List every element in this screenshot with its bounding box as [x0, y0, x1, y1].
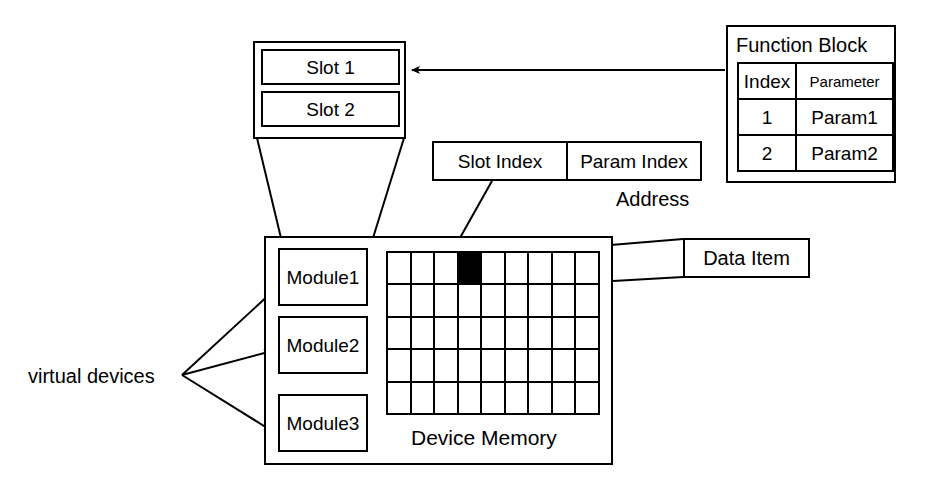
- memory-cell: [576, 285, 600, 317]
- cell-parameter-2: Param2: [796, 135, 893, 171]
- address-field-slot-index: Slot Index: [434, 143, 568, 179]
- cell-index-1: 1: [738, 99, 796, 135]
- memory-cell: [529, 350, 553, 382]
- memory-cell: [576, 350, 600, 382]
- funnel-slots-to-modules: [257, 138, 404, 238]
- memory-cell: [435, 285, 459, 317]
- memory-cell: [553, 383, 577, 415]
- memory-cell: [529, 318, 553, 350]
- memory-cell: [435, 383, 459, 415]
- table-row: 2 Param2: [738, 135, 893, 171]
- memory-cell: [388, 383, 412, 415]
- memory-cell: [412, 285, 436, 317]
- memory-cell: [459, 350, 483, 382]
- slot-item-2-label: Slot 2: [306, 100, 355, 119]
- slot-container: Slot 1 Slot 2: [253, 41, 406, 139]
- table-row: 1 Param1: [738, 99, 893, 135]
- cell-index-2: 2: [738, 135, 796, 171]
- memory-cell: [576, 383, 600, 415]
- memory-cell: [576, 318, 600, 350]
- function-block-table: Index Parameter 1 Param1 2 Param2: [737, 62, 894, 172]
- memory-cell: [506, 350, 530, 382]
- memory-cell: [435, 318, 459, 350]
- memory-cell: [388, 285, 412, 317]
- cell-parameter-1: Param1: [796, 99, 893, 135]
- slot-item-1[interactable]: Slot 1: [261, 49, 400, 85]
- memory-cell: [553, 318, 577, 350]
- memory-cell: [388, 350, 412, 382]
- module-box-2-label: Module2: [287, 336, 360, 355]
- slot-item-1-label: Slot 1: [306, 58, 355, 77]
- memory-cell: [412, 383, 436, 415]
- memory-cell: [482, 318, 506, 350]
- function-block-title: Function Block: [736, 35, 867, 55]
- memory-cell: [459, 285, 483, 317]
- memory-cell: [412, 253, 436, 285]
- memory-cell: [506, 285, 530, 317]
- memory-cell: [482, 253, 506, 285]
- memory-cell: [506, 253, 530, 285]
- device-memory-caption: Device Memory: [411, 427, 557, 448]
- device-memory-grid: [386, 251, 600, 415]
- memory-cell: [388, 318, 412, 350]
- memory-cell: [412, 318, 436, 350]
- module-box-1-label: Module1: [287, 268, 360, 287]
- memory-cell: [553, 350, 577, 382]
- address-field-param-index-label: Param Index: [580, 152, 688, 171]
- memory-cell: [435, 350, 459, 382]
- memory-cell: [482, 350, 506, 382]
- memory-cell: [576, 253, 600, 285]
- device-container: Module1 Module2 Module3 Device Memory: [264, 236, 613, 465]
- diagram-canvas: Slot 1 Slot 2 Function Block Index Param…: [0, 0, 933, 492]
- module-box-2[interactable]: Module2: [278, 316, 368, 374]
- module-box-3-label: Module3: [287, 414, 360, 433]
- memory-cell: [553, 253, 577, 285]
- memory-cell: [435, 253, 459, 285]
- table-header-row: Index Parameter: [738, 63, 893, 99]
- slot-item-2[interactable]: Slot 2: [261, 91, 400, 127]
- memory-cell: [482, 383, 506, 415]
- column-header-parameter: Parameter: [796, 63, 893, 99]
- data-item-label: Data Item: [703, 248, 790, 268]
- memory-cell: [459, 383, 483, 415]
- function-block-panel: Function Block Index Parameter 1 Param1 …: [726, 25, 896, 183]
- memory-cell: [506, 383, 530, 415]
- memory-cell: [459, 318, 483, 350]
- memory-cell: [529, 253, 553, 285]
- address-caption: Address: [616, 189, 689, 209]
- memory-cell-highlighted: [459, 253, 483, 285]
- arrows-virtualdevices-to-modules: [182, 292, 272, 431]
- memory-cell: [553, 285, 577, 317]
- memory-cell: [482, 285, 506, 317]
- address-box: Slot Index Param Index: [432, 141, 702, 181]
- memory-cell: [529, 383, 553, 415]
- memory-cell: [506, 318, 530, 350]
- memory-cell: [388, 253, 412, 285]
- memory-cell: [412, 350, 436, 382]
- module-box-1[interactable]: Module1: [278, 248, 368, 306]
- address-field-slot-index-label: Slot Index: [458, 152, 543, 171]
- column-header-index: Index: [738, 63, 796, 99]
- memory-cell: [529, 285, 553, 317]
- module-box-3[interactable]: Module3: [278, 394, 368, 452]
- address-field-param-index: Param Index: [568, 143, 700, 179]
- virtual-devices-label: virtual devices: [28, 366, 155, 386]
- data-item-box: Data Item: [683, 238, 810, 278]
